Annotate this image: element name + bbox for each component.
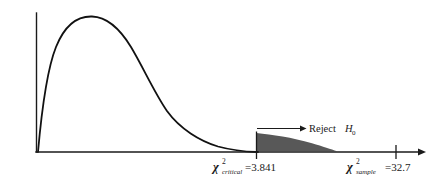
reject-label: Reject [309,123,336,134]
chi-square-density-curve [38,16,258,152]
x-axis-arrowhead [418,149,426,156]
chi-square-figure: Reject H 0 χ 2 critical =3.841 χ 2 sampl… [0,0,432,182]
sample-chi-symbol: χ [345,160,354,174]
reject-annotation-arrowhead [300,126,307,132]
critical-chi-symbol: χ [211,160,220,174]
critical-chi-superscript: 2 [222,157,226,166]
null-hypothesis-subscript: 0 [352,129,356,137]
critical-chi-subscript: critical [222,168,242,176]
critical-value-text: =3.841 [245,161,276,173]
sample-chi-subscript: sample [356,168,376,176]
chi-square-plot: Reject H 0 χ 2 critical =3.841 χ 2 sampl… [0,0,432,182]
sample-chi-superscript: 2 [356,157,360,166]
sample-value-text: =32.7 [385,161,411,173]
rejection-region-shading [257,133,338,151]
